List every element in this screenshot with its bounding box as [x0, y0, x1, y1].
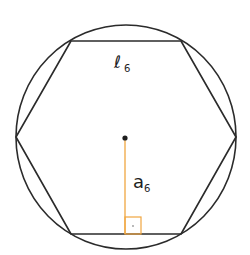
side-label: ℓ 6	[113, 52, 130, 74]
hexagon-in-circle-diagram: ℓ 6 a 6	[0, 0, 250, 255]
right-angle-dot	[132, 225, 134, 227]
side-label-main: ℓ	[113, 52, 121, 72]
apothem-label-sub: 6	[144, 183, 150, 194]
apothem-label: a 6	[133, 171, 150, 194]
center-point	[122, 135, 127, 140]
side-label-sub: 6	[124, 63, 130, 74]
apothem-label-main: a	[133, 171, 144, 192]
